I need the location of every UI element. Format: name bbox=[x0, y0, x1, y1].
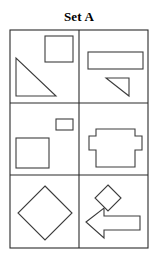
right-triangle-shape bbox=[16, 58, 56, 96]
small-rectangle-shape bbox=[56, 119, 73, 130]
cell-r2c2 bbox=[89, 129, 142, 167]
square-shape bbox=[45, 36, 73, 62]
left-arrow-shape bbox=[86, 208, 140, 238]
shape-grid bbox=[0, 0, 158, 266]
cell-r2c1 bbox=[16, 119, 73, 168]
large-diamond-shape bbox=[18, 186, 72, 240]
cell-r3c1 bbox=[18, 186, 72, 240]
cell-r1c1 bbox=[16, 36, 73, 96]
cell-r3c2 bbox=[86, 185, 140, 238]
right-triangle-shape bbox=[106, 78, 129, 96]
cell-r1c2 bbox=[88, 52, 143, 96]
wide-rectangle-shape bbox=[88, 52, 143, 69]
large-square-shape bbox=[16, 138, 49, 168]
small-diamond-shape bbox=[95, 185, 121, 211]
tabbed-rectangle-shape bbox=[89, 129, 142, 167]
figure-root: Set A bbox=[0, 0, 158, 266]
